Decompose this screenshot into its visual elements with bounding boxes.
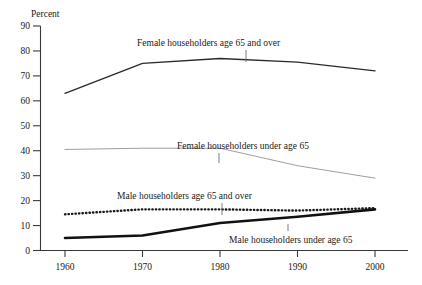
- x-tick-label: 1970: [133, 262, 152, 272]
- series-label-female-under-65: Female householders under age 65: [177, 141, 309, 151]
- series-label-female-65-and-over: Female householders age 65 and over: [137, 38, 281, 48]
- series-line-1: [65, 148, 375, 178]
- y-tick-label: 10: [21, 221, 31, 231]
- y-tick-label: 70: [21, 71, 31, 81]
- series-label-male-under-65: Male householders under age 65: [229, 235, 353, 245]
- y-tick-label: 40: [21, 146, 31, 156]
- x-tick-label: 2000: [366, 262, 385, 272]
- line-chart-figure: Percent 0102030405060708090 196019701980…: [0, 0, 422, 285]
- x-axis-ticks: 19601970198019902000: [56, 251, 385, 273]
- axis-lines: [41, 26, 409, 251]
- series-label-male-65-and-over: Male householders age 65 and over: [117, 191, 253, 201]
- y-axis-ticks: 0102030405060708090: [21, 21, 41, 256]
- series-line-0: [65, 58, 375, 93]
- x-tick-label: 1980: [211, 262, 230, 272]
- chart-canvas: Percent 0102030405060708090 196019701980…: [0, 0, 422, 285]
- y-tick-label: 60: [21, 96, 31, 106]
- x-tick-label: 1990: [288, 262, 307, 272]
- x-tick-label: 1960: [56, 262, 75, 272]
- y-tick-label: 20: [21, 196, 31, 206]
- y-tick-label: 80: [21, 46, 31, 56]
- y-tick-label: 30: [21, 171, 31, 181]
- y-axis-title: Percent: [31, 9, 60, 19]
- y-tick-label: 0: [25, 246, 30, 256]
- series-line-3: [65, 209, 375, 238]
- y-tick-label: 90: [21, 21, 31, 31]
- y-tick-label: 50: [21, 121, 31, 131]
